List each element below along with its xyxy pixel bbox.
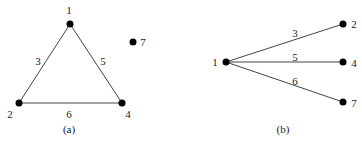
edge-weight: 3 [35, 55, 41, 67]
node-2 [16, 100, 23, 107]
caption-b: (b) [277, 123, 290, 136]
edge-1-7 [226, 62, 343, 102]
node-label: 1 [66, 4, 72, 16]
node-label: 2 [351, 18, 357, 30]
diagram-b: 1 2 4 7 3 5 6 (b) [212, 18, 357, 136]
node-4 [119, 100, 126, 107]
node-label: 7 [351, 97, 357, 109]
node-7 [130, 39, 137, 46]
diagram-a: 1 2 4 7 3 5 6 (a) [7, 4, 146, 136]
node-label: 4 [351, 57, 357, 69]
edge-weight: 6 [66, 108, 72, 120]
node-label: 7 [140, 36, 146, 48]
node-2 [340, 21, 347, 28]
node-label: 1 [212, 56, 218, 68]
node-label: 4 [125, 108, 131, 120]
edge-1-4 [70, 24, 122, 103]
edge-1-2 [226, 24, 343, 62]
edge-weight: 5 [292, 51, 298, 63]
node-1 [67, 21, 74, 28]
node-7 [340, 99, 347, 106]
edge-weight: 5 [100, 55, 106, 67]
node-label: 2 [7, 108, 13, 120]
caption-a: (a) [63, 123, 76, 136]
graph-diagrams: 1 2 4 7 3 5 6 (a) 1 2 4 7 3 5 6 (b) [0, 0, 362, 144]
edge-1-2 [19, 24, 70, 103]
edge-weight: 3 [292, 27, 298, 39]
node-1 [223, 59, 230, 66]
node-4 [340, 59, 347, 66]
edge-weight: 6 [292, 75, 298, 87]
